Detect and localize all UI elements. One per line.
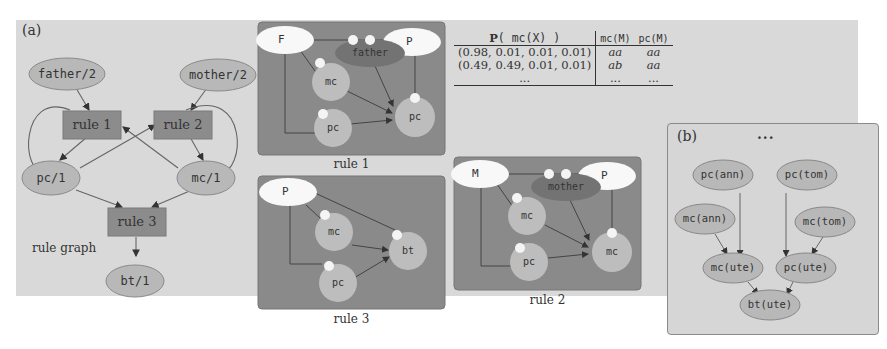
var-M-label: M [472, 167, 479, 180]
node-mc-label: mc [514, 210, 540, 221]
rule-1-label: rule 1 [63, 117, 121, 132]
table-header-row: P( mc(X) ) mc(M) pc(M) [454, 31, 673, 46]
node-mc-ann-label: mc(ann) [675, 212, 735, 224]
var-P-label: P [406, 35, 413, 48]
predicate-pc-label: pc/1 [22, 171, 80, 185]
var-F-label: F [278, 33, 285, 46]
relation-father-label: father [335, 47, 405, 58]
node-pc-label: pc [325, 277, 351, 288]
rule-3-label: rule 3 [108, 214, 166, 229]
node-pc-ute-label: pc(ute) [776, 261, 836, 273]
table-row: ... ... ... [454, 72, 673, 86]
var-P-label: P [601, 169, 608, 182]
node-pc-ann-label: pc(ann) [693, 168, 753, 180]
node-mc-label: mc [318, 76, 344, 87]
predicate-mother-label: mother/2 [180, 68, 256, 82]
predicate-father-label: father/2 [29, 67, 105, 81]
rule1-caption: rule 1 [258, 157, 445, 171]
node-mc-tom-label: mc(tom) [795, 215, 855, 227]
rule3-caption: rule 3 [258, 312, 445, 326]
rule-graph-caption: rule graph [32, 241, 96, 255]
ellipsis-label: ... [757, 126, 775, 142]
var-P-label: P [282, 185, 289, 198]
cpt-table: P( mc(X) ) mc(M) pc(M) (0.98, 0.01, 0.01… [454, 31, 673, 86]
rule2-network [451, 157, 641, 290]
relation-mother-label: mother [531, 181, 601, 192]
node-mc-ute-label: mc(ute) [703, 261, 763, 273]
ground-network [675, 160, 855, 320]
panel-b-label: (b) [677, 128, 697, 144]
table-row: (0.49, 0.49, 0.01, 0.01) ab aa [454, 59, 673, 72]
node-bt-ute-label: bt(ute) [740, 298, 800, 310]
diagram-canvas [0, 0, 887, 349]
rule2-caption: rule 2 [454, 293, 641, 307]
table-header-prob: P( mc(X) ) [454, 31, 596, 46]
predicate-bt-label: bt/1 [106, 274, 164, 288]
table-row: (0.98, 0.01, 0.01, 0.01) aa aa [454, 46, 673, 60]
table-header-pc: pc(M) [634, 31, 672, 46]
predicate-mc-label: mc/1 [177, 171, 235, 185]
node-pc-label: pc [320, 122, 346, 133]
table-header-mc: mc(M) [596, 31, 635, 46]
node-mc-label: mc [321, 226, 347, 237]
node-mc-head-label: mc [599, 246, 625, 257]
node-pc-label: pc [516, 256, 542, 267]
node-pc-tom-label: pc(tom) [777, 168, 837, 180]
rule-2-label: rule 2 [154, 117, 212, 132]
node-pc-head-label: pc [402, 111, 428, 122]
panel-a-label: (a) [22, 22, 41, 38]
node-bt-label: bt [395, 245, 421, 256]
